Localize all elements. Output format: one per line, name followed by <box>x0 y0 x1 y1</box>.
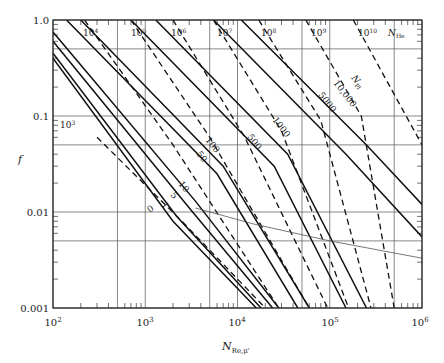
x-axis-title: NRe,μ' <box>221 340 250 355</box>
he-curve <box>85 20 279 308</box>
pl-title: NPl <box>348 72 366 91</box>
he-curve <box>97 137 265 308</box>
x-tick-label: 106 <box>411 316 429 328</box>
pl-label: 50 <box>194 149 209 164</box>
pl-curve <box>53 41 273 308</box>
x-tick-label: 105 <box>321 316 338 328</box>
x-tick-label: 104 <box>228 316 246 328</box>
y-axis-title: f <box>17 153 24 166</box>
x-tick-label: 103 <box>136 316 153 328</box>
y-tick-label: 0.01 <box>27 207 49 218</box>
y-tick-label: 0.001 <box>20 303 49 314</box>
pl-curve <box>53 53 261 308</box>
he-label: 108 <box>261 27 276 38</box>
y-tick-label: 1.0 <box>33 15 49 26</box>
he-label: 106 <box>171 27 186 38</box>
he-label: 103 <box>60 119 75 130</box>
y-tick-label: 0.1 <box>33 111 49 122</box>
pl-label: 5000 <box>316 90 338 114</box>
x-tick-label: 102 <box>44 316 61 328</box>
pl-curve <box>156 20 367 308</box>
friction-factor-chart: 1.0 0.1 0.01 0.001 102 103 104 105 106 f… <box>0 0 444 363</box>
he-label: 105 <box>131 27 146 38</box>
pl-label: 0 <box>145 203 156 215</box>
he-curve <box>214 20 349 308</box>
pl-curve <box>214 20 423 237</box>
he-title: NHe <box>387 28 405 39</box>
pl-labels: NPl 10,000 5000 1000 500 100 50 10 5 1 0 <box>145 72 366 214</box>
he-curve <box>306 20 394 308</box>
he-label: 109 <box>311 27 326 38</box>
he-label: 1010 <box>358 27 377 38</box>
pl-label: 500 <box>245 132 264 152</box>
pl-label: 1000 <box>270 115 292 139</box>
pl-label: 5 <box>168 190 180 201</box>
pl-curve <box>53 32 279 308</box>
pl-curve <box>67 20 298 308</box>
